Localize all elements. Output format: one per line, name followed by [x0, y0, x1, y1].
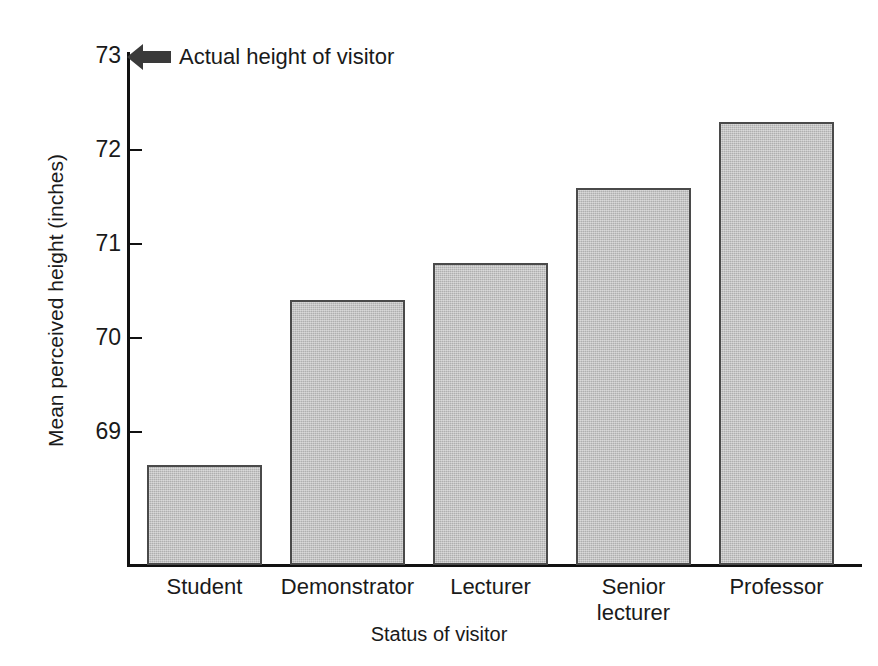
y-axis-tick-label: 71 — [75, 232, 121, 255]
category-label: Lecturer — [413, 574, 568, 600]
bar-professor — [719, 122, 834, 565]
y-axis-tick-label: 72 — [75, 138, 121, 161]
y-axis-tick-label: 73 — [75, 44, 121, 67]
bar-student — [147, 465, 262, 565]
category-label: Student — [127, 574, 282, 600]
annotation-label: Actual height of visitor — [179, 46, 394, 68]
y-axis-tick — [127, 337, 142, 339]
y-axis-tick-label-text: 71 — [75, 232, 121, 255]
actual-height-annotation: Actual height of visitor — [127, 41, 394, 73]
y-axis-tick-label-text: 69 — [75, 420, 121, 443]
bar-chart: Mean perceived height (inches) 737271706… — [0, 0, 878, 666]
y-axis-tick — [127, 149, 142, 151]
category-label-line1: Senior — [556, 574, 711, 600]
category-label-line1: Demonstrator — [270, 574, 425, 600]
y-axis-tick-label-text: 70 — [75, 326, 121, 349]
y-axis-tick-label-text: 73 — [75, 44, 121, 67]
y-axis-tick — [127, 243, 142, 245]
x-axis-title: Status of visitor — [0, 624, 878, 644]
category-label-line1: Lecturer — [413, 574, 568, 600]
bar-lecturer — [433, 263, 548, 565]
y-axis-tick-label: 69 — [75, 420, 121, 443]
y-axis-title: Mean perceived height (inches) — [45, 136, 66, 466]
category-label-line1: Student — [127, 574, 282, 600]
category-label: Seniorlecturer — [556, 574, 711, 626]
bar-senior-lecturer — [576, 188, 691, 565]
category-label-line1: Professor — [699, 574, 854, 600]
category-label-line2: lecturer — [556, 600, 711, 626]
bar-demonstrator — [290, 300, 405, 565]
left-arrow-icon — [127, 42, 171, 72]
y-axis-tick-label-text: 72 — [75, 138, 121, 161]
y-axis-tick-label: 70 — [75, 326, 121, 349]
category-label: Professor — [699, 574, 854, 600]
y-axis-tick — [127, 431, 142, 433]
category-label: Demonstrator — [270, 574, 425, 600]
y-axis-line — [127, 52, 130, 567]
